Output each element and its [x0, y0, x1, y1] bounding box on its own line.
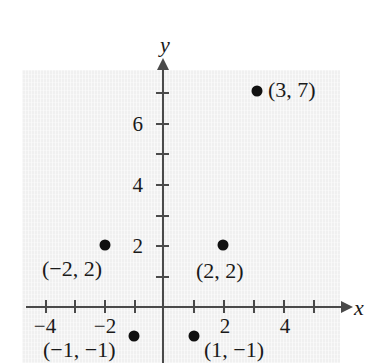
x-tick-label-2: 2 — [220, 314, 231, 339]
y-tick-label-2: 2 — [121, 234, 143, 259]
y-tick-6 — [156, 123, 169, 125]
x-tick-minus-1 — [134, 300, 136, 313]
data-point-label-minus1-minus1: (−1, −1) — [43, 337, 115, 363]
y-axis-arrow-icon — [157, 58, 169, 70]
x-axis-label: x — [354, 295, 364, 321]
data-point-label-2-2: (2, 2) — [196, 258, 244, 284]
data-point-label-minus2-2: (−2, 2) — [42, 256, 102, 282]
y-tick-7 — [156, 92, 169, 94]
y-tick-5 — [156, 153, 169, 155]
plot-background-panel — [22, 70, 340, 363]
data-point-2-2 — [218, 240, 229, 251]
data-point-3-7 — [252, 86, 263, 97]
y-tick-label-4: 4 — [121, 173, 143, 198]
x-tick-1 — [193, 300, 195, 313]
y-tick-label-6: 6 — [121, 112, 143, 137]
data-point-label-1-minus1: (1, −1) — [204, 337, 264, 363]
data-point-minus2-2 — [100, 240, 111, 251]
y-tick-3 — [156, 215, 169, 217]
x-tick-5 — [313, 300, 315, 313]
data-point-1-minus1 — [189, 331, 200, 342]
x-tick-label-4: 4 — [280, 314, 291, 339]
coordinate-plane-figure: −4 −2 2 4 2 4 6 x y (3, 7) (−2, 2) (2, 2… — [0, 0, 383, 363]
y-tick-2 — [156, 245, 169, 247]
y-axis-label: y — [160, 32, 170, 58]
data-point-label-3-7: (3, 7) — [268, 77, 316, 103]
x-tick-minus-4 — [45, 300, 47, 313]
x-axis-arrow-icon — [341, 301, 353, 313]
x-tick-3 — [253, 300, 255, 313]
y-tick-1 — [156, 276, 169, 278]
x-tick-minus-3 — [74, 300, 76, 313]
x-tick-minus-2 — [104, 300, 106, 313]
x-tick-4 — [283, 300, 285, 313]
y-tick-4 — [156, 184, 169, 186]
x-tick-2 — [223, 300, 225, 313]
x-tick-label-minus-2: −2 — [94, 314, 116, 339]
data-point-minus1-minus1 — [129, 331, 140, 342]
x-tick-label-minus-4: −4 — [34, 314, 56, 339]
